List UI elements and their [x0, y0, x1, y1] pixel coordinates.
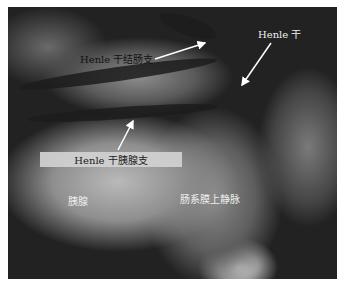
tissue-shadow: [28, 100, 218, 125]
label-henle-trunk: Henle 干: [258, 29, 301, 41]
label-smv: 肠系膜上静脉: [180, 194, 240, 206]
surgical-photo: [8, 7, 337, 279]
label-henle-pancreatic-branch: Henle 干胰腺支: [40, 152, 182, 167]
tissue-shadow: [157, 7, 220, 44]
label-henle-colic-branch: Henle 干结肠支: [80, 54, 153, 66]
label-pancreas: 胰腺: [68, 196, 88, 208]
